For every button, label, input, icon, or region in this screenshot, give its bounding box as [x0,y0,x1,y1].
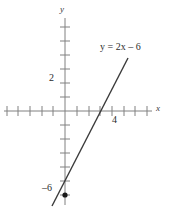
x-axis-label: x [156,103,160,113]
x-axis-group [4,106,152,116]
y-intercept-label: –6 [42,182,52,193]
y-tick-label-2: 2 [49,72,54,83]
coordinate-plane [0,0,174,212]
y-axis-label: y [60,4,64,14]
linear-function-graph: y x 2 4 –6 y = 2x – 6 [0,0,174,212]
x-tick-label-4: 4 [112,114,117,125]
y-intercept-point [62,192,67,197]
function-line [52,58,128,206]
equation-annotation: y = 2x – 6 [100,41,141,52]
